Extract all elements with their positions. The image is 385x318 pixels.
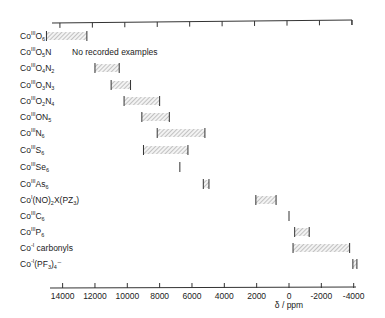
shift-range-bar: [46, 31, 86, 41]
row-co3-on5: CoIIION5: [20, 111, 169, 123]
shift-range-bar: [295, 227, 310, 237]
shift-range-bar: [111, 80, 130, 90]
shift-range-bar: [124, 96, 160, 106]
shift-range-bar: [143, 145, 187, 155]
row-label: CoIIIN6: [20, 127, 45, 139]
shift-range-bar: [293, 243, 350, 253]
x-tick-label: -4000: [343, 291, 365, 301]
x-tick-label: 10000: [115, 291, 139, 301]
row-label: Co-I carbonyls: [20, 242, 73, 253]
shift-range-bar: [157, 128, 205, 138]
row-label: CoIIIO4N2: [20, 62, 54, 74]
row-label: CoIIIS6: [20, 144, 44, 156]
row-co3-se6: CoIIISe6: [20, 161, 180, 173]
shift-range-bar: [203, 179, 209, 189]
x-tick-label: 8000: [150, 291, 169, 301]
row-co-1-pf3: Co-I(PF3)4⁻: [20, 258, 357, 270]
row-label: CoIIIAs6: [20, 178, 48, 190]
no-data-note: No recorded examples: [72, 47, 158, 57]
row-co3-o4n2: CoIIIO4N2: [20, 62, 119, 74]
row-label: CoIIIC6: [20, 210, 45, 222]
x-tick-label: -2000: [310, 291, 332, 301]
row-co3-c6: CoIIIC6: [20, 210, 289, 222]
x-tick-label: 6000: [183, 291, 202, 301]
x-tick-label: 14000: [51, 291, 75, 301]
bottom-axis: 14000120001000080006000400020000-2000-40…: [50, 283, 365, 301]
row-co3-o6: CoIIIO6: [20, 30, 87, 42]
data-rows: CoIIIO6CoIIIO5NNo recorded examplesCoIII…: [20, 30, 357, 270]
shift-range-bar: [256, 195, 276, 205]
row-co1-no: CoI(NO)2X(PZ3): [20, 194, 276, 206]
x-tick-label: 2000: [247, 291, 266, 301]
row-label: CoIIIO2N4: [20, 95, 54, 107]
row-co3-as6: CoIIIAs6: [20, 178, 209, 190]
row-label: CoIIIO3N3: [20, 79, 54, 91]
row-co-1-carb: Co-I carbonyls: [20, 242, 350, 253]
x-tick-label: 12000: [83, 291, 107, 301]
row-label: CoIIIP6: [20, 226, 44, 238]
top-axis: [52, 20, 352, 28]
shift-range-bar: [142, 112, 169, 122]
shift-range-bar: [353, 259, 357, 269]
row-co3-s6: CoIIIS6: [20, 144, 188, 156]
row-label: CoIIIO6: [20, 30, 45, 42]
row-co3-o3n3: CoIIIO3N3: [20, 79, 131, 91]
shift-range-bar: [95, 63, 119, 73]
row-label: CoIIION5: [20, 111, 51, 123]
row-co3-o2n4: CoIIIO2N4: [20, 95, 160, 107]
row-label: CoIIISe6: [20, 161, 49, 173]
row-label: CoIIIO5N: [20, 46, 51, 58]
x-tick-label: 4000: [215, 291, 234, 301]
row-label: CoI(NO)2X(PZ3): [20, 194, 79, 206]
row-co3-p6: CoIIIP6: [20, 226, 309, 238]
nmr-shift-range-chart: 14000120001000080006000400020000-2000-40…: [0, 0, 385, 318]
row-co3-o5n: CoIIIO5NNo recorded examples: [20, 46, 158, 58]
row-co3-n6: CoIIIN6: [20, 127, 205, 139]
x-axis-label: δ / ppm: [275, 300, 303, 310]
row-label: Co-I(PF3)4⁻: [20, 258, 62, 270]
